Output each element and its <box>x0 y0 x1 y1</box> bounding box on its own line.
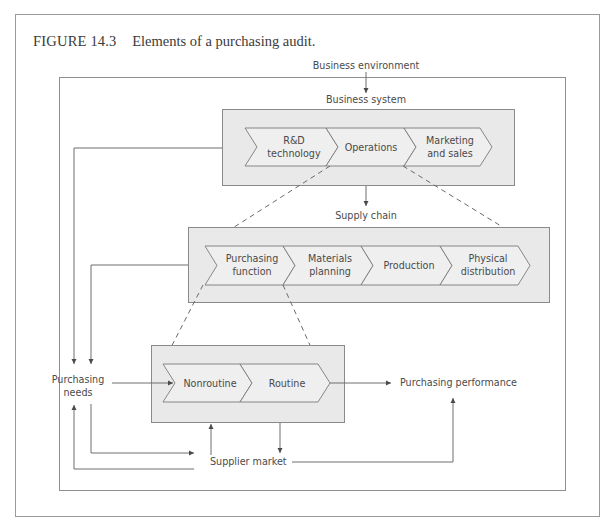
label-supply-chain: Supply chain <box>335 210 397 221</box>
label-business-system: Business system <box>326 94 406 105</box>
chevron-label: and sales <box>427 148 473 159</box>
label-supplier-market: Supplier market <box>210 456 287 467</box>
chevron-label: function <box>232 266 271 277</box>
chevron-label: technology <box>267 148 321 159</box>
chevron-label: Physical <box>468 253 507 264</box>
chevron-label: distribution <box>461 266 516 277</box>
chevron-label: Production <box>383 260 434 271</box>
chevron-label: Materials <box>308 253 352 264</box>
supply-chain-chevrons: Purchasing function Materials planning P… <box>205 246 530 285</box>
chevron-rd-technology <box>245 128 338 166</box>
label-purchasing-performance: Purchasing performance <box>400 377 517 388</box>
chevron-label: R&D <box>283 135 305 146</box>
purchasing-chevrons: Nonroutine Routine <box>163 364 330 402</box>
chevron-label: Purchasing <box>226 253 279 264</box>
purchasing-audit-diagram: Business environment Business system R&D… <box>0 0 614 526</box>
label-purchasing-needs-2: needs <box>64 387 93 398</box>
chevron-label: Routine <box>269 378 306 389</box>
chevron-label: Marketing <box>426 135 474 146</box>
chevron-label: planning <box>309 266 351 277</box>
chevron-marketing-sales <box>404 128 492 166</box>
business-system-chevrons: R&D technology Operations Marketing and … <box>245 128 492 166</box>
label-purchasing-needs-1: Purchasing <box>52 374 105 385</box>
chevron-label: Nonroutine <box>183 378 236 389</box>
chevron-label: Operations <box>345 142 398 153</box>
label-business-environment: Business environment <box>313 60 420 71</box>
